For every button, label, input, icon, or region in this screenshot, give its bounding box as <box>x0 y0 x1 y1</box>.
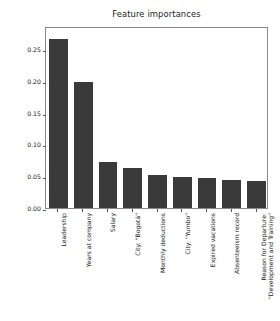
bar <box>222 180 241 208</box>
y-tick-label: 0.10 <box>27 141 41 148</box>
y-tick-mark <box>43 146 46 147</box>
plot-area: Importance 0.000.050.100.150.200.25 <box>45 27 268 209</box>
x-tick-mark <box>157 209 158 212</box>
chart-title: Feature importances <box>45 9 268 19</box>
y-tick-mark <box>43 51 46 52</box>
y-tick: 0.15 <box>2 115 46 116</box>
bar <box>74 82 93 208</box>
y-tick-mark <box>43 115 46 116</box>
y-tick-mark <box>43 83 46 84</box>
x-tick-label: Leadership <box>60 213 67 247</box>
y-tick-label: 0.05 <box>27 173 41 180</box>
x-tick-mark <box>107 209 108 212</box>
x-tick-label: Expired vacations <box>209 213 216 267</box>
y-tick: 0.20 <box>2 83 46 84</box>
x-tick-mark <box>206 209 207 212</box>
x-tick-mark <box>231 209 232 212</box>
y-tick: 0.00 <box>2 210 46 211</box>
bar <box>99 162 118 208</box>
y-tick-label: 0.00 <box>27 205 41 212</box>
x-tick-label: Absenteeism record <box>233 213 240 274</box>
x-tick-mark <box>256 209 257 212</box>
bar <box>49 39 68 208</box>
x-tick-mark <box>132 209 133 212</box>
figure-canvas: Feature importances Importance 0.000.050… <box>0 0 280 321</box>
y-tick-label: 0.25 <box>27 46 41 53</box>
x-tick-label: City: "Bogotá" <box>134 213 141 256</box>
x-tick-label: Reason for Departure:"Development and Tr… <box>260 213 274 299</box>
bar <box>148 175 167 208</box>
x-tick-label: Monthly deductions <box>159 213 166 273</box>
y-tick-mark <box>43 210 46 211</box>
y-tick: 0.25 <box>2 51 46 52</box>
bar <box>247 181 266 208</box>
y-tick-mark <box>43 178 46 179</box>
bar <box>198 178 217 208</box>
x-tick-label: Years at company <box>85 213 92 267</box>
y-tick-label: 0.15 <box>27 110 41 117</box>
x-tick-label: Salary <box>109 213 116 232</box>
x-tick-mark <box>181 209 182 212</box>
x-tick-mark <box>82 209 83 212</box>
x-tick-mark <box>57 209 58 212</box>
x-tick-label: City: "Yumbo" <box>184 213 191 255</box>
y-tick-label: 0.20 <box>27 78 41 85</box>
bar <box>123 168 142 208</box>
bar <box>173 177 192 208</box>
y-tick: 0.05 <box>2 178 46 179</box>
y-tick: 0.10 <box>2 146 46 147</box>
